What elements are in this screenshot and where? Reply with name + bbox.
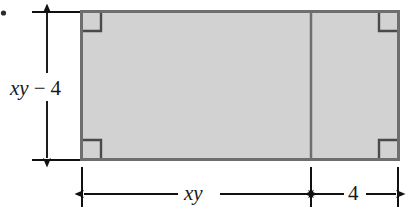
height-label-number: 4	[51, 76, 62, 100]
width-dimension-group: xy 4	[82, 167, 398, 207]
geometry-figure: xy−4 xy 4	[0, 0, 406, 209]
height-label-variable: xy	[9, 76, 29, 100]
figure-canvas: xy−4 xy 4	[0, 0, 406, 209]
width-left-label: xy	[183, 181, 203, 205]
height-label: xy−4	[9, 76, 62, 100]
rectangle-shape	[82, 12, 399, 160]
item-bullet-dot	[1, 10, 6, 15]
height-label-operator: −	[34, 76, 46, 100]
height-dimension-group: xy−4	[2, 12, 80, 160]
width-right-label: 4	[348, 181, 359, 205]
